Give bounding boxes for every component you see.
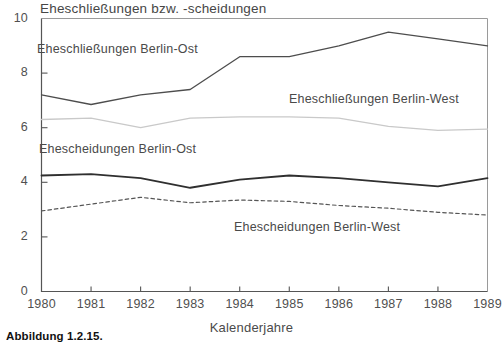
x-axis-tick-label: 1984 <box>217 297 263 311</box>
y-axis-tick-label: 6 <box>4 120 28 134</box>
x-axis-tick-label: 1985 <box>266 297 312 311</box>
chart-title: Eheschließungen bzw. -scheidungen <box>40 1 267 16</box>
figure-container: Eheschließungen bzw. -scheidungen Ehesch… <box>0 0 503 345</box>
x-axis-tick-label: 1989 <box>465 297 503 311</box>
series-line-2 <box>42 174 488 188</box>
series-label-divorces-east: Ehescheidungen Berlin-Ost <box>39 142 196 156</box>
x-axis-tick-label: 1981 <box>68 297 114 311</box>
y-axis-tick-label: 0 <box>4 284 28 298</box>
series-label-marriages-west: Eheschließungen Berlin-West <box>289 92 459 106</box>
x-axis-tick-label: 1988 <box>415 297 461 311</box>
y-axis-tick-label: 2 <box>4 229 28 243</box>
y-axis-tick-label: 8 <box>4 65 28 79</box>
x-axis-tick-label: 1986 <box>316 297 362 311</box>
x-axis-tick-label: 1980 <box>19 297 65 311</box>
y-axis-tick-label: 4 <box>4 174 28 188</box>
x-axis-tick-label: 1982 <box>118 297 164 311</box>
x-axis-tick-label: 1983 <box>167 297 213 311</box>
series-line-1 <box>42 117 488 131</box>
series-label-marriages-east: Eheschließungen Berlin-Ost <box>37 42 198 56</box>
series-label-divorces-west: Ehescheidungen Berlin-West <box>234 220 400 234</box>
figure-caption: Abbildung 1.2.15. <box>6 330 103 342</box>
y-axis-tick-label: 10 <box>4 11 28 25</box>
x-axis-tick-label: 1987 <box>365 297 411 311</box>
series-line-3 <box>42 197 488 215</box>
